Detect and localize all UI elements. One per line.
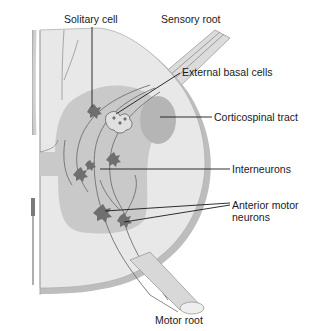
label-external-basal-cells: External basal cells bbox=[182, 66, 272, 78]
label-motor-root: Motor root bbox=[155, 314, 203, 326]
label-corticospinal-tract: Corticospinal tract bbox=[214, 111, 298, 123]
label-interneurons: Interneurons bbox=[232, 163, 291, 175]
label-solitary-cell: Solitary cell bbox=[64, 13, 118, 25]
label-anterior-motor-neurons-line1: Anterior motor bbox=[232, 199, 299, 211]
label-sensory-root: Sensory root bbox=[161, 13, 221, 25]
corticospinal-tract bbox=[140, 96, 176, 144]
label-anterior-motor-neurons-line2: neurons bbox=[232, 211, 270, 223]
